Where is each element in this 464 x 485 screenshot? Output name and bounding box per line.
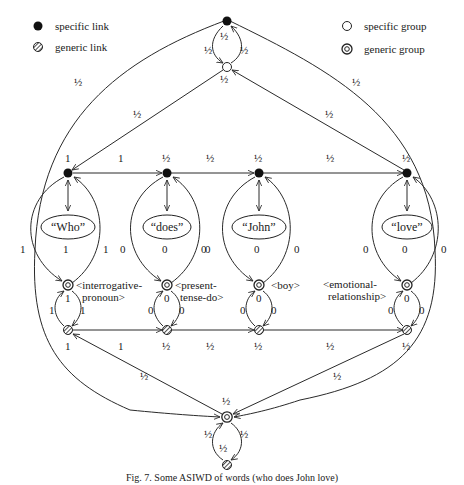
specific-group-icon xyxy=(343,22,352,31)
top-specific-link-node xyxy=(223,17,232,26)
weight-label: ½ xyxy=(206,152,214,164)
weight-label: 1 xyxy=(20,243,26,255)
weight-label: ½ xyxy=(206,340,214,352)
top-hub: ½ ½ ½ ½ ½ ½ ½ ½ xyxy=(34,17,435,411)
group-node-does-inner xyxy=(165,283,170,288)
specific-link-node-does xyxy=(163,169,172,178)
weight-label: 0 xyxy=(120,243,126,255)
weight-label: ½ xyxy=(220,30,228,42)
weight-label: ½ xyxy=(204,44,212,56)
group-node-john-inner xyxy=(257,283,262,288)
weight-label: 1 xyxy=(63,243,69,255)
weight-label: ½ xyxy=(326,340,334,352)
weight-label: ½ xyxy=(140,370,148,382)
generic-link-node-who xyxy=(64,326,73,335)
generic-link-node-does xyxy=(163,326,172,335)
weight-label: 1 xyxy=(49,304,55,316)
weight-label: 0 xyxy=(205,243,211,255)
weight-label: 0 xyxy=(404,292,410,304)
weight-label: ½ xyxy=(402,340,410,352)
weight-label: 0 xyxy=(240,304,246,316)
weight-label: ½ xyxy=(222,395,230,407)
group-label: relationship> xyxy=(328,290,386,302)
weight-label: ½ xyxy=(254,340,262,352)
weight-label: ½ xyxy=(240,44,248,56)
weight-label: 0 xyxy=(254,243,260,255)
weight-label: ½ xyxy=(254,152,262,164)
column-john: ½ “John” 0 0 0 <boy> 0 0 0 ½ xyxy=(205,152,300,352)
semantic-network-diagram: specific link generic link specific grou… xyxy=(0,0,464,485)
weight-label: 0 xyxy=(294,243,300,255)
weight-label: 0 xyxy=(148,304,154,316)
weight-label: ½ xyxy=(74,76,82,88)
specific-link-node-who xyxy=(64,169,73,178)
weight-label: 0 xyxy=(363,243,369,255)
weight-label: 1 xyxy=(118,340,124,352)
column-love: ½ “love” 0 0 0 <emotional- relationship>… xyxy=(323,152,447,352)
group-label: <present- xyxy=(175,279,217,291)
group-node-love-inner xyxy=(405,283,410,288)
weight-label: ½ xyxy=(240,428,248,440)
weight-label: 0 xyxy=(402,243,408,255)
figure-caption: Fig. 7. Some ASIWD of words (who does Jo… xyxy=(0,472,464,483)
specific-link-node-love xyxy=(403,169,412,178)
weight-label: 1 xyxy=(65,292,71,304)
weight-label: 0 xyxy=(179,304,185,316)
group-node-who-inner xyxy=(66,283,71,288)
weight-label: ½ xyxy=(325,108,333,120)
weight-label: ½ xyxy=(220,73,228,85)
weight-label: ½ xyxy=(326,152,334,164)
weight-label: 1 xyxy=(103,243,109,255)
weight-label: ½ xyxy=(352,76,360,88)
group-label: tense-do> xyxy=(180,291,223,303)
legend: specific link generic link specific grou… xyxy=(34,20,428,55)
weight-label: 1 xyxy=(65,152,71,164)
weight-label: 0 xyxy=(419,304,425,316)
weight-label: ½ xyxy=(162,340,170,352)
word-label: “John” xyxy=(242,220,275,234)
weight-label: 0 xyxy=(164,292,170,304)
word-label: “love” xyxy=(391,220,422,234)
weight-label: 1 xyxy=(80,304,86,316)
bottom-generic-link-node xyxy=(223,461,232,470)
weight-label: ½ xyxy=(133,108,141,120)
weight-label: ½ xyxy=(204,428,212,440)
legend-generic-link: generic link xyxy=(55,41,108,53)
weight-label: 0 xyxy=(256,292,262,304)
weight-label: 0 xyxy=(162,243,168,255)
generic-link-icon xyxy=(34,43,43,52)
specific-link-icon xyxy=(34,22,43,31)
weight-label: ½ xyxy=(219,442,227,454)
weight-label: 1 xyxy=(65,340,71,352)
group-label: <emotional- xyxy=(323,278,377,290)
weight-label: ½ xyxy=(333,370,341,382)
group-label: pronoun> xyxy=(82,291,125,303)
word-label: “Who” xyxy=(51,220,85,234)
bottom-generic-group-node-inner xyxy=(225,415,230,420)
generic-link-node-john xyxy=(255,326,264,335)
word-label: “does” xyxy=(151,220,184,234)
bottom-chain: 1 ½ ½ xyxy=(73,330,403,352)
weight-label: 1 xyxy=(118,152,124,164)
generic-group-icon-inner xyxy=(345,47,350,52)
generic-link-node-love xyxy=(403,326,412,335)
legend-specific-link: specific link xyxy=(55,20,110,32)
weight-label: 0 xyxy=(271,304,277,316)
top-specific-group-node xyxy=(223,63,232,72)
legend-specific-group: specific group xyxy=(364,20,427,32)
weight-label: 0 xyxy=(388,304,394,316)
group-label: <boy> xyxy=(271,279,300,291)
legend-generic-group: generic group xyxy=(364,43,425,55)
top-chain: 1 ½ ½ xyxy=(73,152,403,173)
specific-link-node-john xyxy=(255,169,264,178)
group-label: <interrogative- xyxy=(76,279,142,291)
weight-label: ½ xyxy=(402,152,410,164)
weight-label: ½ xyxy=(162,152,170,164)
bottom-hub: ½ ½ ½ ½ ½ ½ xyxy=(73,334,404,470)
weight-label: 0 xyxy=(441,243,447,255)
